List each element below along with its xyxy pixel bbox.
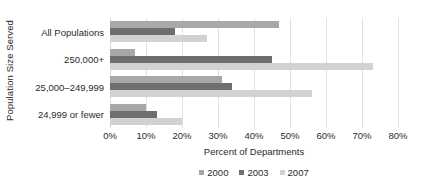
x-axis-tick-label: 50% (280, 130, 299, 141)
legend-item[interactable]: 2003 (239, 168, 268, 178)
y-axis-tick-label: 25,000–249,999 (12, 81, 104, 92)
y-axis-tick-label: 24,999 or fewer (12, 109, 104, 120)
bar (110, 90, 312, 97)
plot-area (110, 18, 398, 128)
legend-swatch-icon (199, 170, 204, 175)
x-axis-tick-label: 30% (208, 130, 227, 141)
legend-label: 2007 (288, 168, 309, 178)
bar-chart: Population Size Served All Populations25… (0, 0, 427, 193)
x-axis-tick-label: 10% (136, 130, 155, 141)
bar (110, 76, 222, 83)
bar (110, 83, 232, 90)
x-axis-tick-label: 60% (316, 130, 335, 141)
bar (110, 118, 182, 125)
x-axis-tick-label: 0% (103, 130, 117, 141)
legend-label: 2003 (247, 168, 268, 178)
bar (110, 49, 135, 56)
bar-group (110, 76, 398, 97)
gridline-80 (398, 18, 399, 128)
bar-group (110, 49, 398, 70)
x-axis-tick-label: 40% (244, 130, 263, 141)
legend-item[interactable]: 2007 (280, 168, 309, 178)
y-axis-tick-label: All Populations (12, 26, 104, 37)
y-axis-tick-label: 250,000+ (12, 54, 104, 65)
bar-group (110, 104, 398, 125)
legend-swatch-icon (280, 170, 285, 175)
chart-legend: 200020032007 (110, 168, 398, 178)
bar (110, 63, 373, 70)
bar (110, 28, 175, 35)
x-axis-tick-label: 20% (172, 130, 191, 141)
legend-item[interactable]: 2000 (199, 168, 228, 178)
x-axis-tick-label: 80% (388, 130, 407, 141)
y-axis-tick-labels: All Populations250,000+25,000–249,99924,… (16, 18, 108, 128)
bar (110, 35, 207, 42)
bar-group (110, 21, 398, 42)
x-axis-title: Percent of Departments (110, 146, 398, 157)
bar (110, 111, 157, 118)
legend-swatch-icon (239, 170, 244, 175)
bar (110, 104, 146, 111)
x-axis-tick-labels: 0%10%20%30%40%50%60%70%80% (110, 130, 398, 144)
bar (110, 21, 279, 28)
bar (110, 56, 272, 63)
x-axis-tick-label: 70% (352, 130, 371, 141)
legend-label: 2000 (207, 168, 228, 178)
